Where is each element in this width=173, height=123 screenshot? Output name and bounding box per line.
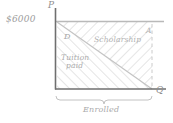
demand-curve-label-d: D [64,33,71,41]
tuition-scholarship-diagram: $6000 P Q D A Scholarship Tuition paid E… [0,0,173,123]
y-axis-label-p: P [48,1,54,10]
region-label-tuition-paid: Tuition paid [61,54,89,70]
enrolled-brace [56,96,152,104]
region-label-scholarship: Scholarship [94,36,141,44]
point-label-a: A [146,27,152,35]
region-label-tuition-line2: paid [61,62,89,70]
x-axis-label-q: Q [156,86,164,95]
y-axis-tick-label-6000: $6000 [6,15,36,24]
brace-label-enrolled: Enrolled [83,106,119,114]
